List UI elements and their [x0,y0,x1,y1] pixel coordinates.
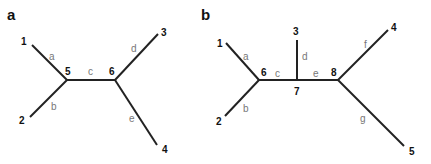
node-2: 2 [19,115,25,126]
edge-label-e: e [129,113,135,124]
panel-b-label: b [201,6,210,23]
edge-label-g: g [360,113,366,124]
edge-label-a: a [49,51,55,62]
node-6: 6 [109,66,115,77]
panel-b-tree: b 1 2 3 4 5 6 7 8 a b c d e f g [201,6,415,157]
edge-label-c: c [275,68,280,79]
node-5: 5 [65,66,71,77]
edge-label-b: b [51,101,57,112]
panel-a-tree: a 1 2 3 4 5 6 a b c d e [7,6,168,155]
node-2: 2 [216,116,222,127]
edge-label-d: d [302,51,308,62]
node-6: 6 [261,67,267,78]
edge-label-e: e [313,68,319,79]
edge-label-d: d [131,43,137,54]
edge-label-c: c [88,66,93,77]
edge-b [225,80,259,116]
node-4: 4 [391,22,397,33]
panel-a-label: a [7,6,16,23]
edge-label-f: f [364,39,367,50]
node-7: 7 [294,86,300,97]
node-4: 4 [162,144,168,155]
edge-g [338,80,404,146]
node-3: 3 [293,26,299,37]
edge-d [115,34,158,80]
edge-label-a: a [243,51,249,62]
edge-label-b: b [243,103,249,114]
node-3: 3 [161,27,167,38]
edge-b [30,80,67,117]
node-1: 1 [217,38,223,49]
node-1: 1 [21,36,27,47]
node-5: 5 [409,146,415,157]
edge-e [115,80,157,145]
node-8: 8 [331,67,337,78]
edge-f [338,30,388,80]
